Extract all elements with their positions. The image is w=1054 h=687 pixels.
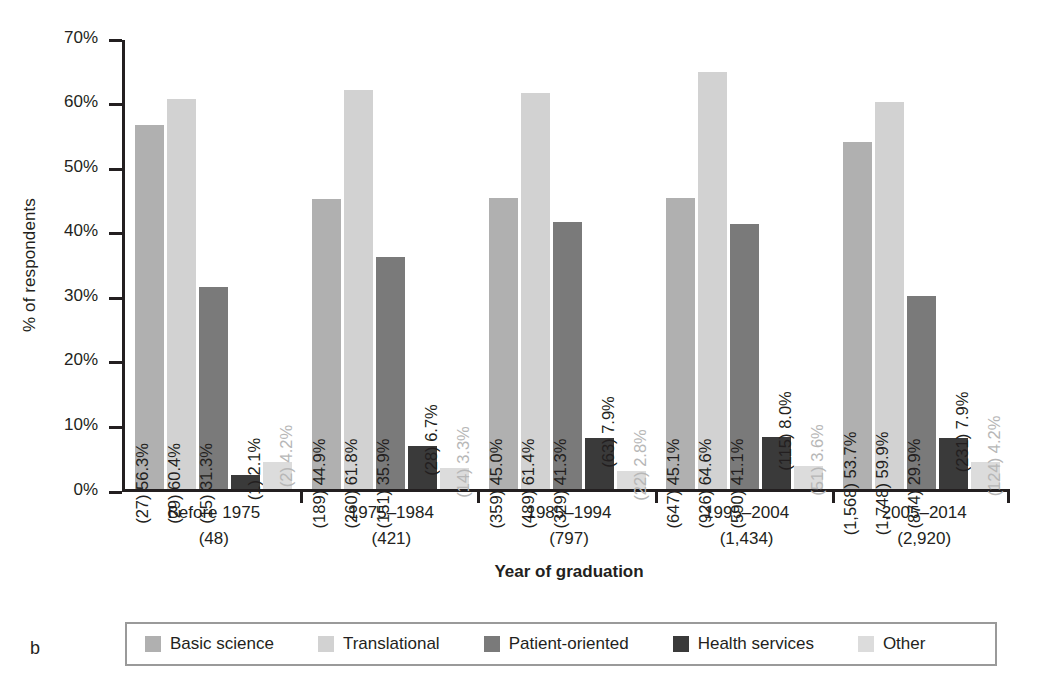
bar-slot: (260) 61.8% bbox=[344, 40, 373, 489]
legend-swatch bbox=[484, 636, 500, 652]
bar-slot: (1,568) 53.7% bbox=[843, 40, 872, 489]
bar-slot: (647) 45.1% bbox=[666, 40, 695, 489]
bar-slot: (124) 4.2% bbox=[971, 40, 1000, 489]
legend-swatch bbox=[145, 636, 161, 652]
x-axis-category-label: 2005–2014(2,920) bbox=[835, 500, 1013, 552]
y-axis-tick: 70% bbox=[109, 39, 122, 42]
x-axis-category-label: 1985–1994(797) bbox=[480, 500, 658, 552]
y-axis-tick: 60% bbox=[109, 103, 122, 106]
y-axis-tick: 20% bbox=[109, 361, 122, 364]
bar-patient-oriented[interactable]: (15) 31.3% bbox=[199, 287, 228, 489]
bar-group: (189) 44.9%(260) 61.8%(151) 35.9%(28) 6.… bbox=[302, 40, 479, 489]
bar-basic-science[interactable]: (647) 45.1% bbox=[666, 198, 695, 489]
bar-other[interactable]: (51) 3.6% bbox=[794, 466, 823, 489]
bar-slot: (115) 8.0% bbox=[762, 40, 791, 489]
bar-health-services[interactable]: (28) 6.7% bbox=[408, 446, 437, 489]
bar-health-services[interactable]: (1) 2.1% bbox=[231, 475, 260, 489]
bar-group: (27) 56.3%(29) 60.4%(15) 31.3%(1) 2.1%(2… bbox=[125, 40, 302, 489]
legend-item-basic-science[interactable]: Basic science bbox=[145, 634, 274, 654]
bar-slot: (590) 41.1% bbox=[730, 40, 759, 489]
y-axis-tick: 0% bbox=[109, 491, 122, 494]
legend-label: Patient-oriented bbox=[509, 634, 629, 654]
bar-patient-oriented[interactable]: (874) 29.9% bbox=[907, 296, 936, 489]
bar-patient-oriented[interactable]: (590) 41.1% bbox=[730, 224, 759, 489]
bar-other[interactable]: (2) 4.2% bbox=[263, 462, 292, 489]
bar-value-label: (28) 6.7% bbox=[423, 404, 440, 476]
bar-other[interactable]: (124) 4.2% bbox=[971, 462, 1000, 489]
category-name: Before 1975 bbox=[167, 503, 260, 522]
bar-slot: (329) 41.3% bbox=[553, 40, 582, 489]
bar-slot: (63) 7.9% bbox=[585, 40, 614, 489]
y-axis-tick-label: 10% bbox=[64, 415, 98, 435]
legend-label: Other bbox=[883, 634, 926, 654]
y-axis-tick: 40% bbox=[109, 232, 122, 235]
bar-translational[interactable]: (1,748) 59.9% bbox=[875, 102, 904, 489]
chart-legend: Basic scienceTranslationalPatient-orient… bbox=[125, 622, 997, 666]
legend-item-patient-oriented[interactable]: Patient-oriented bbox=[484, 634, 629, 654]
bar-slot: (874) 29.9% bbox=[907, 40, 936, 489]
legend-swatch bbox=[673, 636, 689, 652]
legend-item-health-services[interactable]: Health services bbox=[673, 634, 814, 654]
panel-label: b bbox=[30, 638, 40, 659]
category-name: 2005–2014 bbox=[882, 503, 967, 522]
legend-item-other[interactable]: Other bbox=[858, 634, 926, 654]
x-axis-category-label: Before 1975(48) bbox=[125, 500, 303, 552]
bar-slot: (14) 3.3% bbox=[440, 40, 469, 489]
legend-swatch bbox=[318, 636, 334, 652]
bar-basic-science[interactable]: (189) 44.9% bbox=[312, 199, 341, 489]
bar-slot: (1,748) 59.9% bbox=[875, 40, 904, 489]
y-axis-title: % of respondents bbox=[20, 115, 40, 415]
category-count: (48) bbox=[125, 526, 303, 552]
y-axis-tick-label: 70% bbox=[64, 28, 98, 48]
category-name: 1985–1994 bbox=[526, 503, 611, 522]
bar-slot: (1) 2.1% bbox=[231, 40, 260, 489]
y-axis-tick-label: 60% bbox=[64, 92, 98, 112]
bar-translational[interactable]: (489) 61.4% bbox=[521, 93, 550, 489]
category-count: (797) bbox=[480, 526, 658, 552]
category-name: 1975–1984 bbox=[349, 503, 434, 522]
bar-basic-science[interactable]: (1,568) 53.7% bbox=[843, 142, 872, 489]
bar-slot: (151) 35.9% bbox=[376, 40, 405, 489]
bar-value-label: (14) 3.3% bbox=[455, 426, 472, 498]
legend-item-translational[interactable]: Translational bbox=[318, 634, 440, 654]
figure-panel-b: % of respondents 0%10%20%30%40%50%60%70%… bbox=[0, 0, 1054, 687]
bar-slot: (359) 45.0% bbox=[489, 40, 518, 489]
bar-translational[interactable]: (260) 61.8% bbox=[344, 90, 373, 489]
y-axis-tick-label: 50% bbox=[64, 157, 98, 177]
y-axis-tick-label: 30% bbox=[64, 286, 98, 306]
x-axis-line bbox=[122, 489, 1010, 492]
bar-health-services[interactable]: (231) 7.9% bbox=[939, 438, 968, 489]
bar-value-label: (124) 4.2% bbox=[986, 416, 1003, 497]
y-axis-tick: 50% bbox=[109, 168, 122, 171]
bar-slot: (489) 61.4% bbox=[521, 40, 550, 489]
bar-health-services[interactable]: (115) 8.0% bbox=[762, 437, 791, 489]
bar-slot: (2) 4.2% bbox=[263, 40, 292, 489]
bar-patient-oriented[interactable]: (329) 41.3% bbox=[553, 222, 582, 489]
bar-value-label: (2) 4.2% bbox=[278, 425, 295, 487]
bar-other[interactable]: (14) 3.3% bbox=[440, 468, 469, 489]
bar-group: (1,568) 53.7%(1,748) 59.9%(874) 29.9%(23… bbox=[833, 40, 1010, 489]
bar-basic-science[interactable]: (27) 56.3% bbox=[135, 125, 164, 489]
y-axis-tick: 30% bbox=[109, 297, 122, 300]
bar-slot: (51) 3.6% bbox=[794, 40, 823, 489]
y-axis-tick-label: 0% bbox=[73, 480, 98, 500]
bar-health-services[interactable]: (63) 7.9% bbox=[585, 438, 614, 489]
bar-group: (359) 45.0%(489) 61.4%(329) 41.3%(63) 7.… bbox=[479, 40, 656, 489]
category-count: (2,920) bbox=[835, 526, 1013, 552]
bar-value-label: (51) 3.6% bbox=[809, 424, 826, 496]
x-axis-category-label: 1975–1984(421) bbox=[303, 500, 481, 552]
bar-slot: (189) 44.9% bbox=[312, 40, 341, 489]
bar-slot: (231) 7.9% bbox=[939, 40, 968, 489]
y-axis-tick-label: 20% bbox=[64, 350, 98, 370]
x-axis-category-labels: Before 1975(48)1975–1984(421)1985–1994(7… bbox=[125, 500, 1013, 552]
bar-patient-oriented[interactable]: (151) 35.9% bbox=[376, 257, 405, 489]
legend-label: Basic science bbox=[170, 634, 274, 654]
bar-other[interactable]: (22) 2.8% bbox=[617, 471, 646, 489]
bar-translational[interactable]: (926) 64.6% bbox=[698, 72, 727, 489]
x-axis-title: Year of graduation bbox=[125, 562, 1013, 582]
bar-basic-science[interactable]: (359) 45.0% bbox=[489, 198, 518, 489]
bar-translational[interactable]: (29) 60.4% bbox=[167, 99, 196, 489]
bar-value-label: (115) 8.0% bbox=[777, 392, 794, 472]
y-axis-tick: 10% bbox=[109, 426, 122, 429]
category-count: (421) bbox=[303, 526, 481, 552]
